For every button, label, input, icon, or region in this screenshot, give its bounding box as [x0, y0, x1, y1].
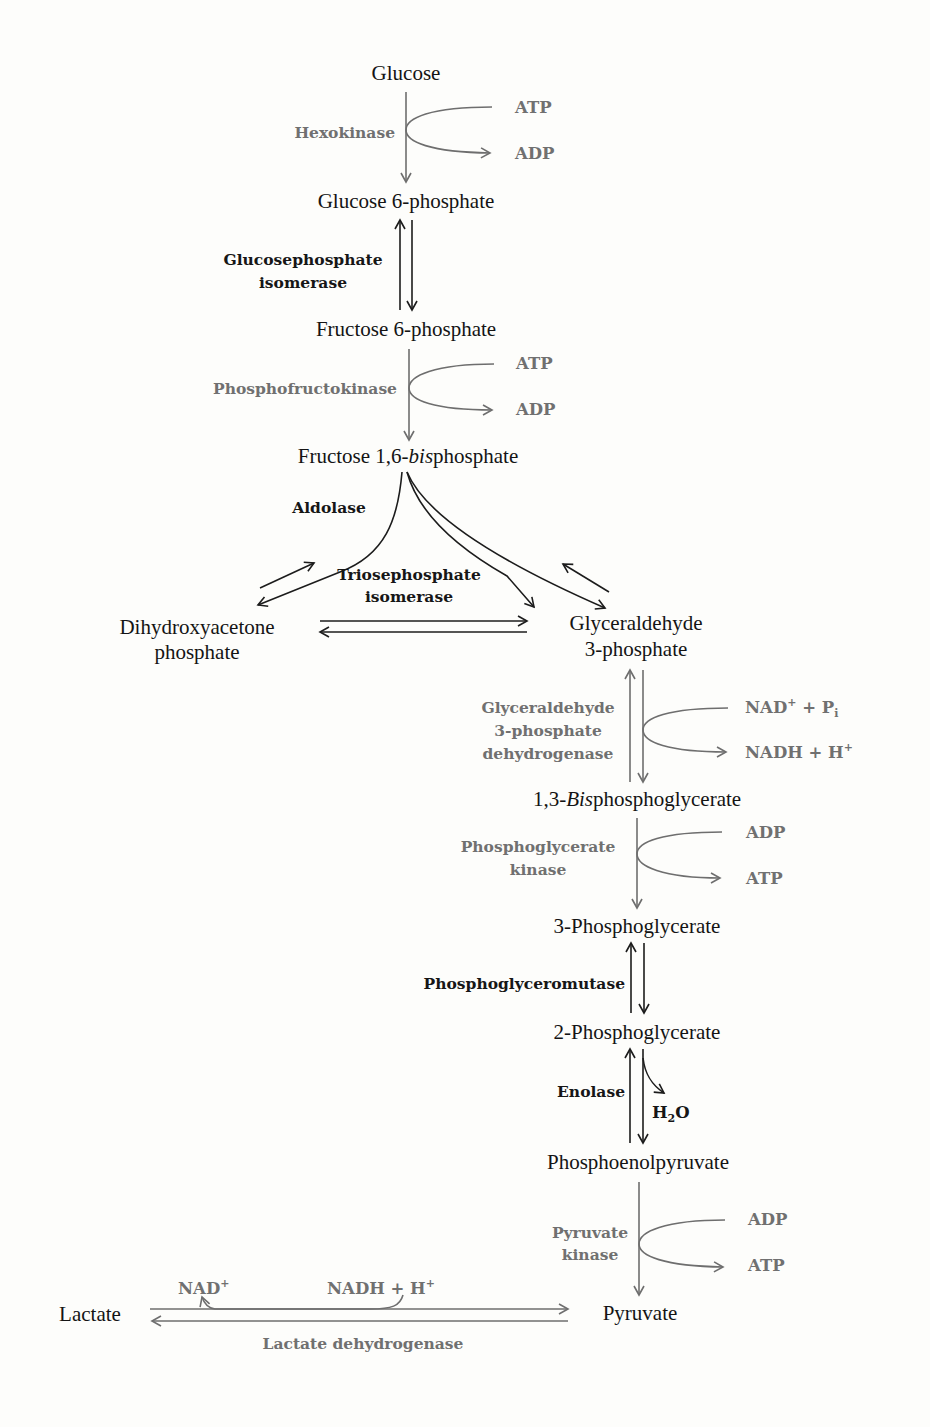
enzyme-phosphoglyceromutase: Phosphoglyceromutase: [424, 974, 626, 993]
enzyme-triosephosphate-isomerase-line2: isomerase: [365, 587, 453, 606]
water-release-arrow: [643, 1058, 664, 1093]
cofactor-curve-pgk: [637, 832, 722, 878]
enzyme-pyruvate-kinase-line2: kinase: [562, 1245, 619, 1264]
cofactor-adp-out-pfk: ADP: [515, 400, 556, 419]
metabolite-lactate: Lactate: [59, 1302, 121, 1326]
aldolase-reverse-g3p: [563, 564, 609, 592]
cofactor-adp-in-pk: ADP: [747, 1210, 788, 1229]
metabolite-glucose: Glucose: [372, 61, 441, 85]
enzyme-enolase: Enolase: [557, 1082, 625, 1101]
enzyme-glucosephosphate-isomerase: Glucosephosphate: [223, 250, 382, 269]
metabolite-g3p: Glyceraldehyde: [570, 611, 703, 635]
metabolite-g3p-line2: 3-phosphate: [585, 637, 688, 661]
cofactor-atp-in-pfk: ATP: [515, 354, 553, 373]
enzyme-aldolase: Aldolase: [291, 498, 366, 517]
enzyme-lactate-dehydrogenase: Lactate dehydrogenase: [263, 1334, 464, 1353]
enzyme-glucosephosphate-isomerase-line2: isomerase: [259, 273, 347, 292]
cofactor-atp-in: ATP: [514, 98, 552, 117]
metabolite-pyruvate: Pyruvate: [603, 1301, 678, 1325]
aldolase-reverse-dhap: [260, 563, 314, 588]
cofactor-nadh-ldh: NADH + H+: [327, 1277, 435, 1298]
cofactor-h2o: H2O: [652, 1103, 690, 1125]
metabolite-13-bisphosphoglycerate: 1,3-Bisphosphoglycerate: [533, 787, 741, 811]
metabolite-fructose-16-bisphosphate: Fructose 1,6-bisphosphate: [298, 444, 519, 468]
metabolite-fructose-6-phosphate: Fructose 6-phosphate: [316, 317, 496, 341]
cofactor-nad-pi-in: NAD+ + Pi: [745, 696, 838, 720]
enzyme-gapdh-line3: dehydrogenase: [483, 744, 614, 763]
cofactor-curve-hexokinase: [406, 107, 492, 153]
cofactor-nadh-out: NADH + H+: [745, 741, 853, 762]
metabolite-dhap: Dihydroxyacetone: [119, 615, 274, 639]
enzyme-pyruvate-kinase: Pyruvate: [552, 1223, 628, 1242]
enzyme-phosphofructokinase: Phosphofructokinase: [213, 379, 397, 398]
enzyme-phosphoglycerate-kinase: Phosphoglycerate: [461, 837, 616, 856]
glycolysis-diagram: Glucose Hexokinase ATP ADP Glucose 6-pho…: [0, 0, 930, 1427]
enzyme-hexokinase: Hexokinase: [294, 123, 395, 142]
enzyme-gapdh-line2: 3-phosphate: [494, 721, 602, 740]
cofactor-atp-out-pk: ATP: [747, 1256, 785, 1275]
enzyme-phosphoglycerate-kinase-line2: kinase: [510, 860, 567, 879]
cofactor-nad-ldh: NAD+: [178, 1277, 229, 1298]
cofactor-curve-gapdh: [643, 708, 728, 752]
aldolase-branch-dhap: [258, 472, 402, 605]
metabolite-glucose-6-phosphate: Glucose 6-phosphate: [318, 189, 495, 213]
enzyme-triosephosphate-isomerase: Triosephosphate: [337, 565, 481, 584]
metabolite-3-phosphoglycerate: 3-Phosphoglycerate: [554, 914, 721, 938]
cofactor-adp-in-pgk: ADP: [745, 823, 786, 842]
cofactor-curve-pfk: [409, 364, 494, 410]
cofactor-atp-out-pgk: ATP: [745, 869, 783, 888]
enzyme-gapdh: Glyceraldehyde: [481, 698, 614, 717]
metabolite-dhap-line2: phosphate: [154, 640, 239, 664]
metabolite-2-phosphoglycerate: 2-Phosphoglycerate: [554, 1020, 721, 1044]
metabolite-phosphoenolpyruvate: Phosphoenolpyruvate: [547, 1150, 729, 1174]
cofactor-curve-pyruvate-kinase: [639, 1220, 725, 1267]
cofactor-adp-out: ADP: [514, 144, 555, 163]
